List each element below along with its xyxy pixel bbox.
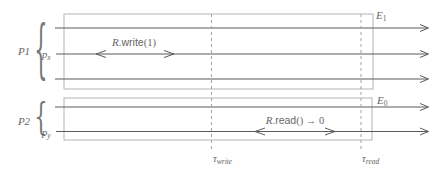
register-execution-figure: E1 { P1 px R.write(1) E0 { P2 py R.read(… bbox=[0, 0, 446, 176]
tau-read-label: τread bbox=[362, 153, 379, 166]
tau-write-label: τwrite bbox=[213, 153, 233, 166]
p2-group-label: P2 bbox=[17, 115, 31, 127]
execution-box-e0 bbox=[64, 98, 372, 140]
box-label-e1: E1 bbox=[375, 9, 387, 23]
read-operation-label: R.read() → 0 bbox=[265, 114, 324, 127]
write-operation-label: R.write(1) bbox=[111, 36, 156, 49]
execution-box-e1 bbox=[64, 14, 373, 89]
p1-group-label: P1 bbox=[17, 45, 30, 57]
box-label-e0: E0 bbox=[376, 94, 388, 108]
register-execution-diagram: E1 { P1 px R.write(1) E0 { P2 py R.read(… bbox=[0, 0, 446, 176]
